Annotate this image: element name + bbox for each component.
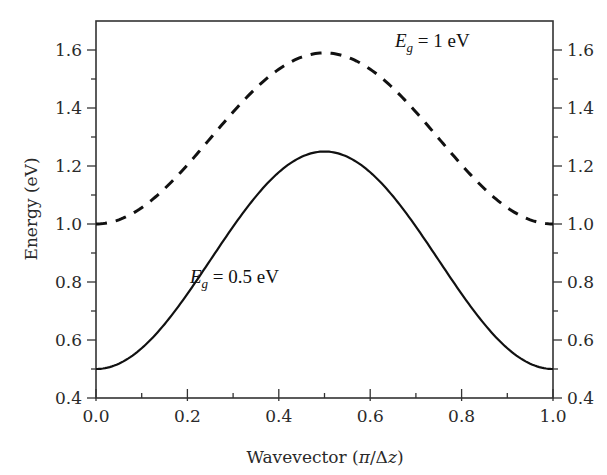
y-axis-right-ticks: 0.40.60.81.01.21.41.6 — [553, 40, 594, 408]
y-tick-label-right: 1.6 — [567, 40, 594, 60]
y-tick-label: 0.6 — [55, 330, 82, 350]
x-tick-label: 0.2 — [174, 406, 201, 426]
y-tick-label: 0.8 — [55, 272, 82, 292]
series-group — [96, 53, 553, 369]
y-axis-label: Energy (eV) — [21, 157, 41, 260]
annotation-eg-05ev: Eg = 0.5 eV — [189, 266, 279, 291]
y-tick-label: 1.0 — [55, 214, 82, 234]
y-tick-label: 1.4 — [55, 98, 82, 118]
x-tick-label: 0.6 — [357, 406, 384, 426]
x-tick-label: 0.8 — [448, 406, 475, 426]
x-tick-label: 1.0 — [539, 406, 566, 426]
y-tick-label-right: 1.4 — [567, 98, 594, 118]
plot-border — [96, 21, 553, 398]
x-tick-label: 0.4 — [265, 406, 292, 426]
x-axis-label: Wavevector (π/Δz) — [246, 447, 403, 467]
y-axis-left-ticks: 0.40.60.81.01.21.41.6 — [55, 40, 96, 408]
y-tick-label: 1.2 — [55, 156, 82, 176]
y-tick-label-right: 1.2 — [567, 156, 594, 176]
series-eg-1ev-dashed — [96, 53, 553, 224]
plot-frame — [96, 21, 553, 398]
y-tick-label-right: 0.4 — [567, 388, 594, 408]
series-eg-05ev-solid — [96, 152, 553, 370]
annotation-eg-1ev: Eg = 1 eV — [394, 30, 470, 55]
y-tick-label-right: 0.6 — [567, 330, 594, 350]
y-tick-label-right: 1.0 — [567, 214, 594, 234]
y-tick-label: 0.4 — [55, 388, 82, 408]
chart-canvas: 0.40.60.81.01.21.41.6 0.40.60.81.01.21.4… — [0, 0, 607, 475]
x-axis-ticks: 0.00.20.40.60.81.0 — [82, 389, 566, 426]
y-tick-label: 1.6 — [55, 40, 82, 60]
x-tick-label: 0.0 — [82, 406, 109, 426]
y-tick-label-right: 0.8 — [567, 272, 594, 292]
